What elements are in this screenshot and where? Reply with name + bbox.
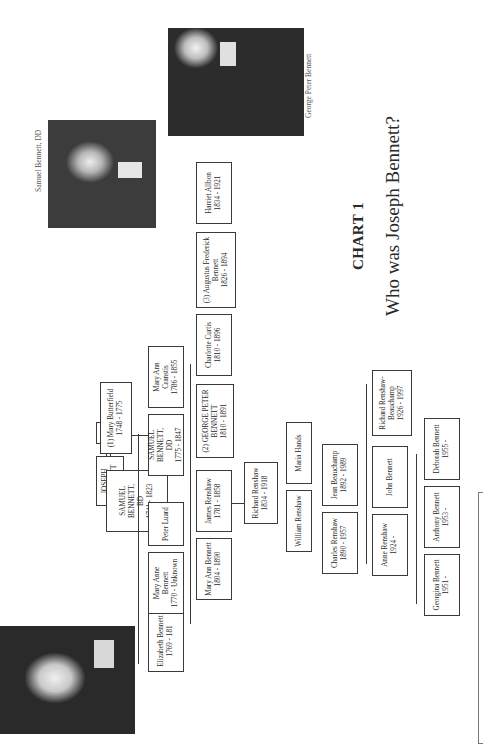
person-william-renshaw: William Renshaw: [286, 490, 312, 552]
portrait-left: [0, 626, 135, 734]
person-george-peter-bennett: (2) GEORGE PETER BENNETT 1810 - 1891: [196, 384, 234, 458]
person-anthony-bennett: Anthony Bennett 1953 -: [424, 486, 460, 548]
connector: [138, 434, 139, 664]
portrait-samuel: [48, 120, 156, 228]
person-harriet-allbon: Harriet Allbon 1834 - 1921: [196, 162, 232, 224]
page-frame-bracket: [478, 492, 483, 744]
portrait-collar: [118, 162, 142, 178]
person-augustus-frederick-bennett: (3) Augustus Frederick Bennett 1826 - 18…: [196, 232, 236, 308]
person-charles-renshaw: Charles Renshaw 1890 - 1957: [322, 512, 358, 574]
person-peter-luard: Peter Luard: [148, 502, 184, 546]
person-maria-hands: Maria Hands: [286, 422, 312, 484]
person-anne-renshaw: Anne Renshaw 1924 -: [372, 514, 408, 576]
person-mary-ann-bennett: Mary Ann Bennett 1804 - 1890: [196, 538, 232, 600]
person-mary-butterfield: (1) Mary Butterfield 1748 - 1775: [100, 382, 132, 454]
portrait-collar: [94, 640, 114, 668]
person-richard-renshaw-beauchamp: Richard Renshaw- Beauchamp 1926 - 1997: [372, 370, 412, 436]
connector: [366, 384, 367, 564]
connector: [232, 503, 244, 504]
person-john-bennett: John Bennett: [372, 446, 408, 508]
chart-subtitle: Who was Joseph Bennett?: [382, 116, 404, 316]
chart-heading: CHART 1: [350, 202, 367, 270]
genealogy-chart-page: Samuel Bennett, DD George Peter Bennett …: [0, 0, 485, 754]
connector: [416, 454, 417, 604]
portrait-collar: [220, 42, 236, 66]
person-elizabeth-bennett: Elizabeth Bennett 1769 - 181: [148, 610, 184, 672]
person-samuel-bennett-dd: SAMUEL BENNETT, DD 1775 - 1847: [148, 414, 184, 476]
portrait-caption-george: George Peter Bennett: [304, 54, 313, 118]
connector: [190, 364, 191, 624]
person-georgina-bennett: Georgina Bennett 1951 -: [424, 554, 460, 616]
person-deborah-bennett: Deborah Bennett 1955 -: [424, 418, 460, 480]
person-james-renshaw: James Renshaw 1781 - 1858: [196, 470, 232, 532]
person-mary-ann-cranstis: Mary Ann Cranstis 1786 - 1855: [148, 346, 184, 408]
portrait-caption-samuel: Samuel Bennett, DD: [34, 130, 43, 192]
person-mary-anne-bennett: Mary Anne Bennett 1770 - Unknown: [148, 552, 184, 614]
person-charlotte-curtis: Charlotte Curtis 1810 - 1896: [196, 314, 232, 376]
portrait-george: [168, 28, 304, 136]
person-jean-beauchamp: Jean Beauchamp 1892 - 1989: [322, 444, 358, 506]
person-richard-renshaw: Richard Renshaw 1834 - 1918: [244, 462, 278, 524]
